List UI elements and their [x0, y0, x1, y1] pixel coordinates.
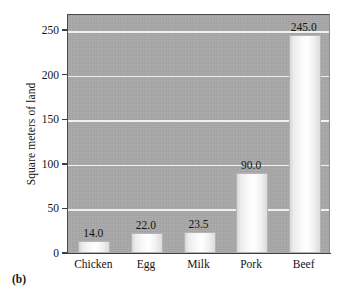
bar-pork	[236, 173, 268, 253]
y-tick-label: 100	[42, 156, 59, 172]
y-tick-label: 200	[42, 67, 59, 83]
value-label-beef: 245.0	[274, 21, 334, 34]
x-axis-line	[67, 253, 331, 255]
bar-beef	[289, 35, 321, 253]
bar-chicken	[78, 241, 110, 253]
y-tick-label: 150	[42, 111, 59, 127]
y-axis-title: Square meters of land	[25, 24, 37, 244]
bar-milk	[184, 232, 216, 253]
value-label-pork: 90.0	[221, 159, 281, 172]
bar-egg	[131, 233, 163, 253]
y-tick-label: 50	[48, 200, 60, 216]
value-label-egg: 22.0	[116, 219, 176, 232]
value-label-chicken: 14.0	[63, 227, 123, 240]
category-label-beef: Beef	[269, 257, 339, 272]
bar-chart-figure: Square meters of land 050100150200250 14…	[0, 0, 349, 297]
value-label-milk: 23.5	[169, 218, 229, 231]
y-tick-label: 250	[42, 22, 59, 38]
panel-caption: (b)	[12, 273, 26, 285]
